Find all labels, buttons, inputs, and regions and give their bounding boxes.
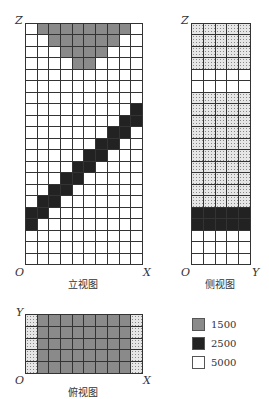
grid-cell bbox=[192, 231, 204, 242]
grid-cell bbox=[192, 254, 204, 265]
grid-cell bbox=[131, 58, 143, 69]
grid-cell bbox=[239, 24, 251, 35]
grid-cell bbox=[73, 58, 85, 69]
grid-cell bbox=[108, 350, 120, 362]
grid-cell bbox=[61, 208, 73, 219]
side-y-axis-label: Y bbox=[252, 266, 259, 279]
grid-cell bbox=[61, 93, 73, 104]
grid-cell bbox=[73, 116, 85, 127]
grid-cell bbox=[204, 47, 216, 58]
grid-cell bbox=[49, 47, 61, 58]
grid-cell bbox=[26, 350, 38, 362]
grid-cell bbox=[120, 127, 132, 138]
grid-cell bbox=[84, 173, 96, 184]
grid-cell bbox=[227, 173, 239, 184]
grid-cell bbox=[216, 196, 228, 207]
grid-cell bbox=[239, 185, 251, 196]
grid-cell bbox=[73, 35, 85, 46]
grid-cell bbox=[204, 127, 216, 138]
grid-cell bbox=[108, 339, 120, 351]
grid-cell bbox=[227, 58, 239, 69]
grid-cell bbox=[108, 35, 120, 46]
grid-cell bbox=[227, 231, 239, 242]
grid-cell bbox=[96, 58, 108, 69]
grid-cell bbox=[84, 35, 96, 46]
grid-cell bbox=[84, 362, 96, 374]
grid-cell bbox=[49, 70, 61, 81]
grid-cell bbox=[131, 35, 143, 46]
grid-cell bbox=[120, 81, 132, 92]
grid-cell bbox=[227, 70, 239, 81]
grid-cell bbox=[227, 24, 239, 35]
grid-cell bbox=[216, 35, 228, 46]
grid-cell bbox=[73, 242, 85, 253]
grid-cell bbox=[120, 362, 132, 374]
grid-cell bbox=[216, 208, 228, 219]
grid-cell bbox=[216, 47, 228, 58]
grid-cell bbox=[73, 362, 85, 374]
grid-cell bbox=[49, 208, 61, 219]
legend-swatch-black bbox=[192, 337, 205, 350]
grid-cell bbox=[120, 70, 132, 81]
grid-cell bbox=[49, 104, 61, 115]
grid-cell bbox=[84, 47, 96, 58]
grid-cell bbox=[192, 196, 204, 207]
grid-cell bbox=[61, 24, 73, 35]
grid-cell bbox=[96, 93, 108, 104]
side-view-caption: 侧视图 bbox=[205, 276, 235, 291]
grid-cell bbox=[120, 116, 132, 127]
grid-cell bbox=[26, 339, 38, 351]
grid-cell bbox=[216, 81, 228, 92]
grid-cell bbox=[49, 58, 61, 69]
grid-cell bbox=[61, 81, 73, 92]
grid-cell bbox=[108, 254, 120, 265]
grid-cell bbox=[49, 254, 61, 265]
grid-cell bbox=[49, 242, 61, 253]
grid-cell bbox=[108, 231, 120, 242]
grid-cell bbox=[73, 162, 85, 173]
grid-cell bbox=[216, 254, 228, 265]
grid-cell bbox=[61, 173, 73, 184]
grid-cell bbox=[26, 242, 38, 253]
front-z-axis-label: Z bbox=[15, 14, 23, 27]
grid-cell bbox=[49, 196, 61, 207]
grid-cell bbox=[84, 327, 96, 339]
grid-cell bbox=[96, 315, 108, 327]
legend-swatch-gray bbox=[192, 318, 205, 331]
grid-cell bbox=[73, 327, 85, 339]
grid-cell bbox=[204, 185, 216, 196]
grid-cell bbox=[73, 139, 85, 150]
grid-cell bbox=[120, 350, 132, 362]
grid-cell bbox=[227, 162, 239, 173]
grid-cell bbox=[120, 150, 132, 161]
grid-cell bbox=[108, 150, 120, 161]
grid-cell bbox=[49, 327, 61, 339]
grid-cell bbox=[216, 139, 228, 150]
grid-cell bbox=[192, 219, 204, 230]
grid-cell bbox=[120, 339, 132, 351]
grid-cell bbox=[216, 242, 228, 253]
grid-cell bbox=[49, 35, 61, 46]
grid-cell bbox=[61, 362, 73, 374]
grid-cell bbox=[239, 254, 251, 265]
grid-cell bbox=[108, 24, 120, 35]
grid-cell bbox=[26, 315, 38, 327]
grid-cell bbox=[227, 93, 239, 104]
grid-cell bbox=[227, 185, 239, 196]
grid-cell bbox=[49, 315, 61, 327]
grid-cell bbox=[131, 327, 143, 339]
grid-cell bbox=[120, 242, 132, 253]
grid-cell bbox=[96, 116, 108, 127]
grid-cell bbox=[96, 24, 108, 35]
grid-cell bbox=[26, 254, 38, 265]
grid-cell bbox=[216, 24, 228, 35]
grid-cell bbox=[38, 35, 50, 46]
grid-cell bbox=[96, 127, 108, 138]
grid-cell bbox=[84, 196, 96, 207]
grid-cell bbox=[84, 70, 96, 81]
grid-cell bbox=[131, 208, 143, 219]
grid-cell bbox=[192, 173, 204, 184]
grid-cell bbox=[120, 24, 132, 35]
grid-cell bbox=[61, 116, 73, 127]
grid-cell bbox=[61, 219, 73, 230]
